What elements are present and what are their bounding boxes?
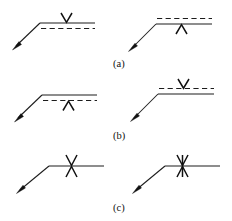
diagram-a-right (129, 19, 213, 52)
v-groove-symbol-icon (176, 25, 187, 34)
arrow-head-icon (13, 42, 22, 50)
diagram-b-left (15, 95, 98, 122)
v-groove-symbol-icon (63, 101, 74, 110)
v-groove-symbol-icon (61, 13, 72, 22)
arrow-head-icon (131, 113, 140, 121)
leader-line (20, 166, 49, 190)
diagram-c-left (17, 155, 105, 194)
v-groove-symbol-upper-icon (66, 155, 77, 166)
v-groove-symbol-lower-icon (66, 167, 77, 178)
v-groove-symbol-icon (178, 79, 189, 88)
caption-b: (b) (113, 130, 126, 142)
arrow-head-icon (17, 185, 26, 193)
arrow-head-icon (129, 43, 138, 51)
leader-line (136, 166, 165, 190)
diagram-b-right (131, 79, 215, 122)
diagram-a-left (13, 13, 96, 50)
caption-a: (a) (113, 58, 125, 70)
figure-canvas: (a) (b) (0, 0, 232, 221)
arrow-head-icon (133, 185, 142, 193)
caption-c: (c) (113, 202, 125, 214)
diagram-c-right (133, 155, 221, 194)
arrow-head-icon (15, 114, 24, 122)
welding-symbol-figure: (a) (b) (0, 0, 232, 221)
